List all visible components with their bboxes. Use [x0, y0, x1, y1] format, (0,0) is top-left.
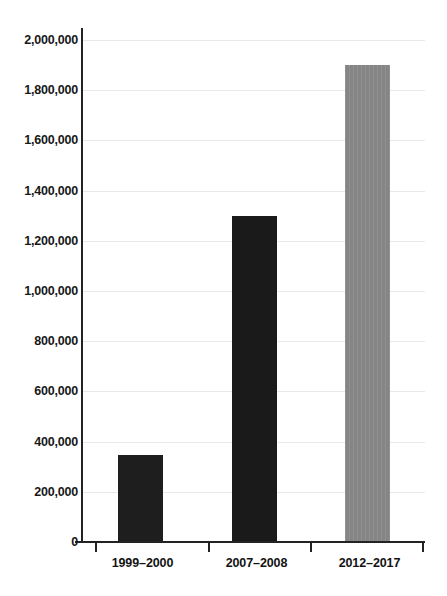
x-axis-tick-left	[95, 543, 97, 552]
y-axis-tick-labels: 2,000,000 1,800,000 1,600,000 1,400,000 …	[0, 0, 78, 596]
y-tick-label-200000: 200,000	[6, 485, 78, 499]
y-tick-label-1400000: 1,400,000	[6, 184, 78, 198]
bar-2012-2017	[345, 65, 390, 542]
bar-1999-2000	[118, 455, 163, 542]
y-tick-label-400000: 400,000	[6, 435, 78, 449]
y-tick-label-1200000: 1,200,000	[6, 234, 78, 248]
y-tick-label-1600000: 1,600,000	[6, 133, 78, 147]
y-tick-label-800000: 800,000	[6, 334, 78, 348]
y-axis-line	[81, 28, 83, 543]
x-tick-label-2007-2008: 2007–2008	[204, 556, 309, 570]
gridline-2000000	[83, 40, 425, 41]
y-tick-label-0: 0	[6, 535, 78, 549]
plot-area	[83, 40, 425, 542]
x-axis-tick-2	[310, 543, 312, 552]
x-tick-label-1999-2000: 1999–2000	[90, 556, 195, 570]
x-axis-line	[81, 541, 425, 543]
y-tick-label-600000: 600,000	[6, 384, 78, 398]
y-tick-label-1000000: 1,000,000	[6, 284, 78, 298]
x-axis-tick-right	[422, 543, 424, 552]
bar-2007-2008	[232, 216, 277, 542]
x-axis-tick-1	[208, 543, 210, 552]
x-tick-label-2012-2017: 2012–2017	[317, 556, 422, 570]
y-tick-label-2000000: 2,000,000	[6, 33, 78, 47]
bar-chart: 2,000,000 1,800,000 1,600,000 1,400,000 …	[0, 0, 447, 596]
y-tick-label-1800000: 1,800,000	[6, 83, 78, 97]
